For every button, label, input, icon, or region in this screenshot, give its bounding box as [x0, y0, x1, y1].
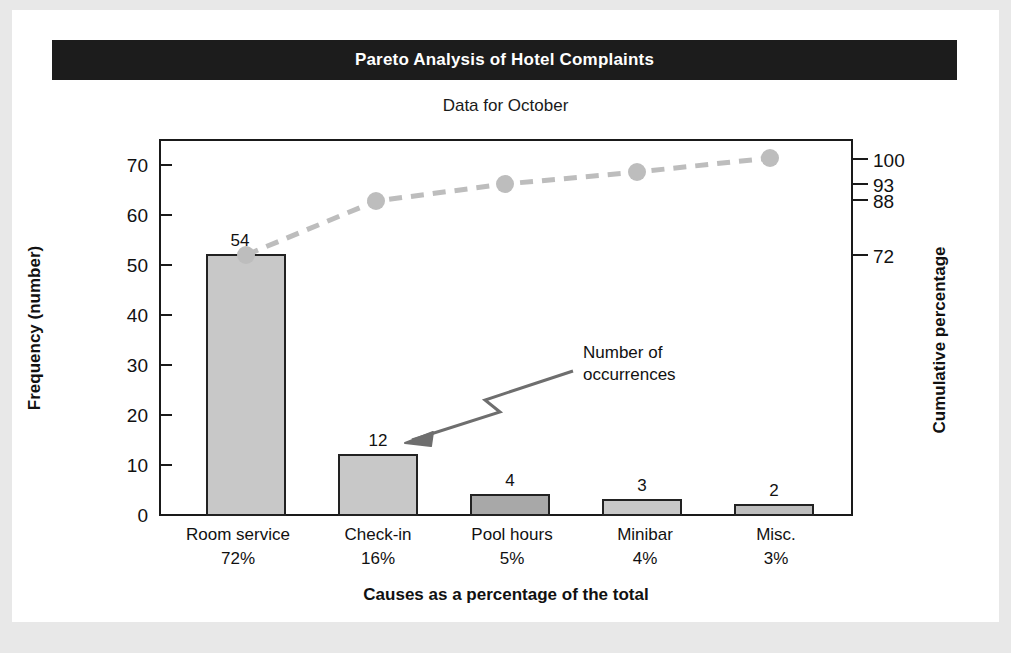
right-tick-72: 72 — [873, 246, 894, 267]
bar-check-in[interactable] — [339, 455, 417, 515]
cumulative-marker-93[interactable] — [496, 175, 514, 193]
left-tick-10: 10 — [127, 455, 148, 476]
category-label-minibar: Minibar — [617, 525, 673, 544]
category-label-room-service: Room service — [186, 525, 290, 544]
bar-value-4: 4 — [505, 471, 514, 490]
right-axis-tick-labels: 100 93 88 72 — [873, 150, 905, 267]
category-label-check-in: Check-in — [344, 525, 411, 544]
pareto-chart-page: Pareto Analysis of Hotel Complaints Data… — [0, 0, 1011, 653]
bar-value-labels: 54 12 4 3 2 — [231, 231, 779, 500]
bar-minibar[interactable] — [603, 500, 681, 515]
annotation-arrow-head-icon — [405, 432, 433, 446]
right-axis-title: Cumulative percentage — [930, 246, 949, 433]
left-axis-title: Frequency (number) — [25, 246, 44, 410]
category-percent-pool-hours: 5% — [500, 549, 525, 568]
annotation-arrow — [405, 371, 573, 446]
cumulative-marker-100[interactable] — [761, 149, 779, 167]
category-label-pool-hours: Pool hours — [471, 525, 552, 544]
left-tick-20: 20 — [127, 405, 148, 426]
category-percent-check-in: 16% — [361, 549, 395, 568]
bar-value-3: 3 — [637, 476, 646, 495]
category-percent-misc: 3% — [764, 549, 789, 568]
left-tick-40: 40 — [127, 305, 148, 326]
left-axis-tick-labels: 0 10 20 30 40 50 60 70 — [127, 155, 148, 526]
left-tick-60: 60 — [127, 205, 148, 226]
category-percent-room-service: 72% — [221, 549, 255, 568]
right-tick-100: 100 — [873, 150, 905, 171]
left-tick-0: 0 — [137, 505, 148, 526]
left-axis-ticks — [160, 165, 172, 515]
category-label-misc: Misc. — [756, 525, 796, 544]
cumulative-marker-72[interactable] — [237, 246, 255, 264]
annotation-arrow-line — [412, 371, 573, 440]
cumulative-marker-97[interactable] — [628, 163, 646, 181]
left-tick-30: 30 — [127, 355, 148, 376]
cumulative-marker-88[interactable] — [367, 192, 385, 210]
bar-pool-hours[interactable] — [471, 495, 549, 515]
left-tick-50: 50 — [127, 255, 148, 276]
annotation-line-2: occurrences — [583, 365, 676, 384]
cumulative-percentage-line — [246, 158, 770, 255]
bar-room-service[interactable] — [207, 255, 285, 515]
category-percent-minibar: 4% — [633, 549, 658, 568]
annotation-line-1: Number of — [583, 343, 663, 362]
bottom-axis-title: Causes as a percentage of the total — [363, 585, 648, 604]
bar-misc[interactable] — [735, 505, 813, 515]
category-labels: Room service 72% Check-in 16% Pool hours… — [186, 525, 796, 568]
right-axis-ticks — [852, 159, 868, 255]
pareto-chart: 0 10 20 30 40 50 60 70 Frequency (number… — [0, 0, 1011, 653]
bar-value-2: 2 — [769, 481, 778, 500]
left-tick-70: 70 — [127, 155, 148, 176]
right-tick-88: 88 — [873, 191, 894, 212]
bar-value-12: 12 — [369, 431, 388, 450]
